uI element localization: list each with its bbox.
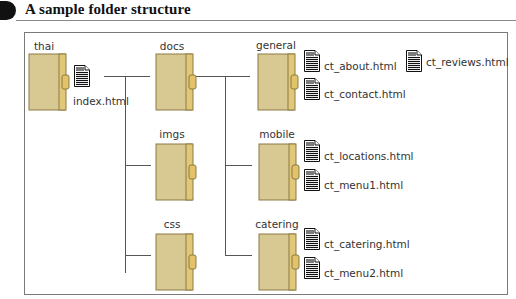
document-icon xyxy=(304,257,320,279)
folder-icon[interactable] xyxy=(155,233,197,291)
document-icon xyxy=(304,228,320,250)
folder-label-catering: catering xyxy=(242,218,312,230)
file-ct-reviews[interactable]: ct_reviews.html xyxy=(406,50,509,72)
file-ct-catering[interactable]: ct_catering.html xyxy=(304,228,410,250)
document-icon xyxy=(406,50,422,72)
document-icon xyxy=(304,140,320,162)
file-ct-locations[interactable]: ct_locations.html xyxy=(304,140,414,162)
file-index[interactable]: index.html xyxy=(73,90,129,109)
file-label: ct_contact.html xyxy=(324,88,406,100)
diagram-title: A sample folder structure xyxy=(25,1,191,18)
section-header: A sample folder structure xyxy=(0,0,516,21)
connector-to-mobile xyxy=(225,165,252,166)
file-label: index.html xyxy=(73,95,129,107)
file-label: ct_menu1.html xyxy=(324,179,403,191)
folder-label-css: css xyxy=(137,218,207,230)
file-ct-contact[interactable]: ct_contact.html xyxy=(304,78,406,100)
file-ct-menu2[interactable]: ct_menu2.html xyxy=(304,257,403,279)
folder-icon[interactable] xyxy=(28,53,70,111)
header-divider xyxy=(16,20,516,21)
document-icon[interactable] xyxy=(74,65,90,87)
folder-icon[interactable] xyxy=(258,233,300,291)
folder-label-general: general xyxy=(241,39,311,51)
folder-icon[interactable] xyxy=(155,143,197,201)
folder-icon[interactable] xyxy=(258,143,300,201)
connector-to-imgs xyxy=(125,165,151,166)
file-ct-menu1[interactable]: ct_menu1.html xyxy=(304,169,403,191)
file-label: ct_reviews.html xyxy=(426,56,509,68)
connector-to-catering xyxy=(225,255,252,256)
document-icon xyxy=(304,169,320,191)
connector-thai-docs xyxy=(104,76,150,77)
file-label: ct_locations.html xyxy=(324,150,414,162)
connector-to-css xyxy=(125,255,151,256)
file-label: ct_catering.html xyxy=(324,238,410,250)
folder-icon[interactable] xyxy=(155,53,197,111)
document-icon xyxy=(304,78,320,100)
folder-label-docs: docs xyxy=(137,40,207,52)
folder-label-mobile: mobile xyxy=(242,128,312,140)
folder-label-thai: thai xyxy=(9,40,79,52)
folder-icon[interactable] xyxy=(257,53,299,111)
header-marker xyxy=(0,1,16,20)
folder-label-imgs: imgs xyxy=(137,128,207,140)
file-label: ct_menu2.html xyxy=(324,267,403,279)
document-icon xyxy=(304,50,320,72)
file-label: ct_about.html xyxy=(324,60,397,72)
file-ct-about[interactable]: ct_about.html xyxy=(304,50,397,72)
connector-docs-general xyxy=(196,76,250,77)
